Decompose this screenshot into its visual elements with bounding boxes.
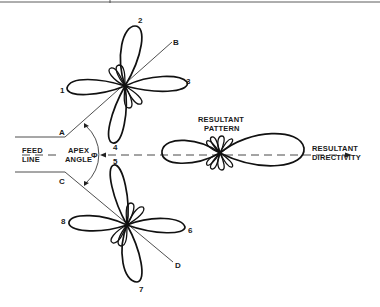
corner-c-label: C	[59, 177, 65, 186]
svg-text:LINE: LINE	[22, 155, 40, 164]
apex-angle-label: APEX ANGLE	[65, 146, 92, 164]
corner-d-label: D	[175, 261, 181, 270]
phi-symbol: Φ	[91, 151, 98, 160]
corner-a-label: A	[59, 128, 65, 137]
lobe-8-label: 8	[61, 217, 66, 226]
page-top-rule	[0, 0, 380, 3]
svg-text:APEX: APEX	[68, 146, 89, 155]
svg-text:FEED: FEED	[22, 146, 43, 155]
resultant-pattern	[162, 134, 304, 170]
resultant-directivity-label: RESULTANT DIRECTIVITY	[312, 144, 361, 162]
svg-text:RESULTANT: RESULTANT	[198, 115, 244, 124]
svg-text:PATTERN: PATTERN	[204, 124, 240, 133]
lobe-3-label: 3	[186, 77, 191, 86]
lobe-7-label: 7	[139, 285, 144, 294]
lobe-5-label: 5	[113, 157, 118, 166]
svg-text:RESULTANT: RESULTANT	[312, 144, 358, 153]
lobe-1-label: 1	[60, 86, 65, 95]
rhombic-antenna-diagram: A B C D 1 2 3 4 5 6 7 8 FEED LINE APEX A…	[0, 0, 380, 307]
svg-text:ANGLE: ANGLE	[65, 155, 92, 164]
lobe-4-label: 4	[113, 143, 118, 152]
resultant-pattern-label: RESULTANT PATTERN	[198, 115, 244, 133]
lobe-6-label: 6	[188, 226, 193, 235]
svg-text:DIRECTIVITY: DIRECTIVITY	[312, 153, 361, 162]
lobe-2-label: 2	[138, 16, 143, 25]
corner-b-label: B	[173, 38, 179, 47]
